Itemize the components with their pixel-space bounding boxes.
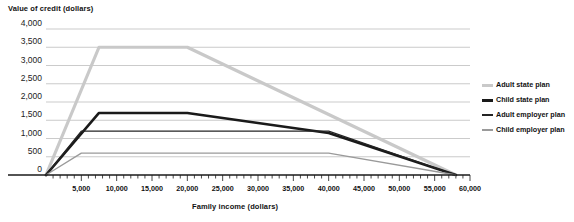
x-axis-title: Family income (dollars) <box>0 202 470 211</box>
axis-tick-marks <box>53 175 470 181</box>
legend-swatch-icon <box>482 84 493 87</box>
legend-item-adult-employer-plan[interactable]: Adult employer plan <box>482 110 574 119</box>
legend-swatch-icon <box>482 99 493 102</box>
series-child-state-plan <box>46 113 456 175</box>
legend-swatch-icon <box>482 129 493 131</box>
legend-item-adult-state-plan[interactable]: Adult state plan <box>482 80 574 89</box>
chart-legend: Adult state planChild state planAdult em… <box>482 80 574 140</box>
series-child-employer-plan <box>46 153 456 175</box>
legend-item-child-employer-plan[interactable]: Child employer plan <box>482 125 574 134</box>
legend-item-label: Adult employer plan <box>496 110 565 119</box>
legend-item-label: Adult state plan <box>496 80 550 89</box>
legend-item-label: Child employer plan <box>496 125 565 134</box>
legend-item-label: Child state plan <box>496 95 550 104</box>
series-lines <box>46 47 456 175</box>
legend-swatch-icon <box>482 114 493 116</box>
credit-value-line-chart: Value of credit (dollars) 4,0003,5003,00… <box>0 0 574 222</box>
legend-item-child-state-plan[interactable]: Child state plan <box>482 95 574 104</box>
